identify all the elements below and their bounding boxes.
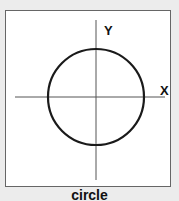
circle-diagram: Y X [0,0,179,201]
x-axis-label: X [160,83,169,98]
y-axis-label: Y [104,23,113,38]
diagram-caption: circle [0,188,179,201]
